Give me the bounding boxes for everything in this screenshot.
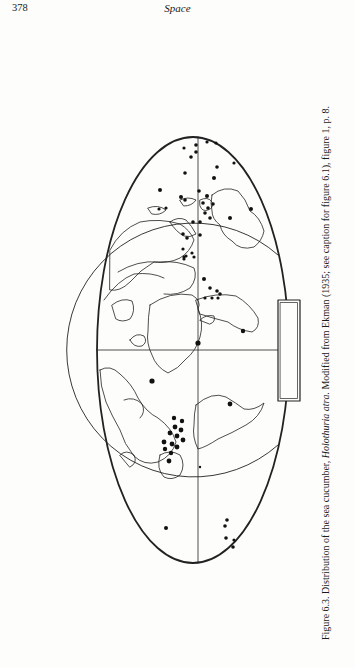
occurrence-markers — [149, 140, 253, 548]
caption-prefix: Distribution of the sea cucumber, — [320, 461, 331, 594]
species-name: Holothuria atra. — [320, 392, 331, 458]
coastlines — [100, 189, 264, 479]
legend-box — [278, 300, 300, 401]
caption-suffix: Modified from Ekman (1935; see caption f… — [320, 106, 331, 390]
figure-caption: Figure 6.3. Distribution of the sea cucu… — [320, 0, 331, 640]
distribution-map — [0, 0, 355, 668]
figure-label: Figure 6.3. — [320, 596, 331, 640]
